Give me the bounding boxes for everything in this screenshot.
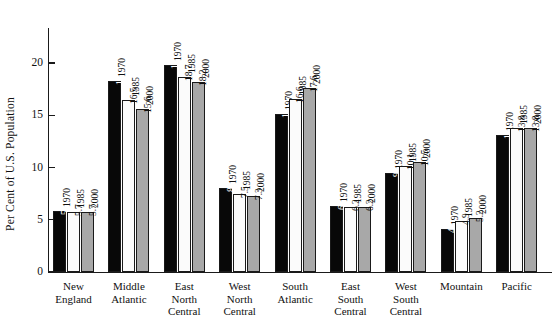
bar-year-label-wrap: 1970 <box>330 202 343 203</box>
bar-year-label: 2000 <box>534 105 544 124</box>
bar-year-label-wrap: 1970 <box>164 61 177 62</box>
bar: 19.8 <box>164 65 177 272</box>
category-label-line: South <box>366 293 446 306</box>
bar-value-label-wrap: 19.8 <box>165 68 178 102</box>
bar-year-label-wrap: 1970 <box>441 225 454 226</box>
bar-value-label-wrap: 13.8 <box>525 131 538 165</box>
bar: 17.6 <box>303 88 316 272</box>
bar-year-label-wrap: 1970 <box>53 207 66 208</box>
bar-value-label-wrap: 7.5 <box>234 197 247 231</box>
bar: 13.1 <box>496 135 509 272</box>
bar-value-label-wrap: 15.6 <box>137 112 150 146</box>
bar-year-label-wrap: 2000 <box>136 105 149 106</box>
bar: 15.6 <box>136 109 149 272</box>
bar-year-label-wrap: 1985 <box>399 162 412 163</box>
bar: 5.8 <box>53 211 66 272</box>
bar: 5.7 <box>67 212 80 272</box>
bar-year-label-wrap: 1985 <box>455 217 468 218</box>
y-tick-label: 0 <box>3 266 43 277</box>
bar: 16.6 <box>289 99 302 272</box>
bar-year-label-wrap: 1970 <box>385 169 398 170</box>
bar-year-label: 2000 <box>202 59 212 78</box>
bar-group: 13.1197013.8198513.82000 <box>496 28 537 272</box>
y-tick-label-wrap: 5 <box>0 214 43 225</box>
bar-year-label-wrap: 1985 <box>233 190 246 191</box>
y-tick-label-wrap: 0 <box>0 266 43 277</box>
bar-value-label-wrap: 13.8 <box>511 131 524 165</box>
bar-year-label: 2000 <box>368 184 378 203</box>
bar-year-label-wrap: 1985 <box>289 95 302 96</box>
bar-year-label: 1970 <box>118 58 128 77</box>
bar-year-label: 2000 <box>313 65 323 84</box>
bar-value-label-wrap: 9.5 <box>386 176 399 210</box>
bar: 6.3 <box>330 206 343 272</box>
bar-group: 19.8197018.7198518.22000 <box>164 28 205 272</box>
bar-year-label: 2000 <box>423 139 433 158</box>
bar: 13.8 <box>524 128 537 272</box>
bar-value-label-wrap: 10.1 <box>400 169 413 203</box>
bar-year-label-wrap: 2000 <box>469 214 482 215</box>
bar-year-label: 1985 <box>243 171 253 190</box>
x-axis-line <box>48 272 552 273</box>
bar-year-label-wrap: 1985 <box>510 124 523 125</box>
bar-value-label-wrap: 7.3 <box>248 199 261 233</box>
bar-group: 8.019707.519857.32000 <box>219 28 260 272</box>
bar: 5.2 <box>469 218 482 272</box>
bar-year-label: 1985 <box>188 54 198 73</box>
bar: 8.0 <box>219 188 232 272</box>
bar: 6.2 <box>358 207 371 272</box>
bar-group: 5.819705.719855.72000 <box>53 28 94 272</box>
bar-value-label-wrap: 18.7 <box>179 80 192 114</box>
bar-year-label: 2000 <box>146 86 156 105</box>
y-tick-label: 15 <box>3 109 43 120</box>
y-tick-label-wrap: 15 <box>0 109 43 120</box>
bar-year-label: 1970 <box>229 165 239 184</box>
bar-value-label-wrap: 15.1 <box>276 117 289 151</box>
category-label: Pacific <box>477 280 557 293</box>
bar-group: 6.319706.219856.22000 <box>330 28 371 272</box>
bar-year-label: 1970 <box>174 42 184 61</box>
bar-value-label-wrap: 13.1 <box>497 138 510 172</box>
y-tick-label: 20 <box>3 57 43 68</box>
bar-year-label-wrap: 2000 <box>413 158 426 159</box>
bar-year-label: 1970 <box>340 183 350 202</box>
category-label-line: Pacific <box>477 280 557 293</box>
bar-group: 9.5197010.1198510.52000 <box>385 28 426 272</box>
bar-year-label: 1985 <box>77 189 87 208</box>
bar-value-label-wrap: 5.2 <box>470 221 483 255</box>
bar: 4.1 <box>441 229 454 272</box>
bar-year-label-wrap: 1985 <box>178 73 191 74</box>
bar-year-label-wrap: 2000 <box>192 78 205 79</box>
bar-value-label-wrap: 18.2 <box>193 85 206 119</box>
bar-year-label-wrap: 1970 <box>219 184 232 185</box>
bar-value-label-wrap: 4.9 <box>456 224 469 258</box>
bar: 7.3 <box>247 196 260 272</box>
bar-year-label-wrap: 1985 <box>344 203 357 204</box>
bar: 18.3 <box>108 81 121 272</box>
bar-year-label: 2000 <box>479 195 489 214</box>
bar: 4.9 <box>455 221 468 272</box>
bar-value-label-wrap: 5.7 <box>82 215 95 249</box>
bar: 5.7 <box>81 212 94 272</box>
bar-group: 4.119704.919855.22000 <box>441 28 482 272</box>
bar-year-label-wrap: 1970 <box>496 131 509 132</box>
bar: 13.8 <box>510 128 523 272</box>
bar-value-label-wrap: 10.5 <box>414 165 427 199</box>
bar-year-label-wrap: 1970 <box>108 77 121 78</box>
bar-year-label: 2000 <box>91 189 101 208</box>
bar-value-label-wrap: 5.7 <box>68 215 81 249</box>
bar-chart: Per Cent of U.S. Population 05101520 5.8… <box>0 0 559 328</box>
bar-year-label-wrap: 2000 <box>81 208 94 209</box>
bar: 9.5 <box>385 173 398 272</box>
bar-value-label-wrap: 16.5 <box>123 103 136 137</box>
bar-year-label: 1970 <box>63 188 73 207</box>
bar: 18.7 <box>178 77 191 272</box>
bar-year-label: 1985 <box>520 105 530 124</box>
bar-year-label-wrap: 2000 <box>524 124 537 125</box>
bar: 10.1 <box>399 166 412 272</box>
bar-year-label-wrap: 2000 <box>358 203 371 204</box>
bar-value-label-wrap: 18.3 <box>109 84 122 118</box>
bar-value-label-wrap: 6.2 <box>359 210 372 244</box>
bar-value-label-wrap: 5.8 <box>54 214 67 248</box>
bar: 7.5 <box>233 194 246 272</box>
